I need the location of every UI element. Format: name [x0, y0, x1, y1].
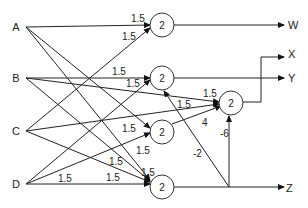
input-label-c: C — [12, 125, 20, 137]
weight-n4-n2: -2 — [193, 148, 202, 159]
weight-a-n1: 1.5 — [131, 13, 145, 24]
weight-b-n5: 1.5 — [203, 88, 217, 99]
weight-c-n5: 1.5 — [177, 99, 191, 110]
node-n1: 2 — [150, 13, 174, 37]
node-n2-threshold: 2 — [159, 73, 165, 84]
edges — [26, 25, 284, 187]
weight-n4-n5: -6 — [220, 128, 229, 139]
node-n3: 2 — [150, 120, 174, 144]
weight-a-n4: 1.5 — [141, 167, 155, 178]
weight-d-n3: 1.5 — [136, 145, 150, 156]
edge-d-n3 — [26, 133, 150, 184]
input-label-d: D — [12, 178, 20, 190]
weight-c-n1: 1.5 — [122, 31, 136, 42]
output-label-y: Y — [288, 72, 296, 84]
output-label-x: X — [288, 48, 296, 60]
node-n1-threshold: 2 — [159, 20, 165, 31]
node-n5-threshold: 2 — [228, 98, 234, 109]
neural-network-diagram: 2 2 2 2 2 A B C D W X Y Z 1.5 1.5 — [0, 0, 308, 208]
weight-a-n3: 1.5 — [122, 123, 136, 134]
node-n4: 2 — [150, 175, 174, 199]
node-n2: 2 — [150, 66, 174, 90]
edge-a-n4 — [26, 27, 150, 180]
edge-n5-x — [243, 57, 284, 102]
input-label-a: A — [12, 21, 20, 33]
weight-b-n4: 1.5 — [106, 172, 120, 183]
weight-d-n2: 1.5 — [126, 78, 140, 89]
input-label-b: B — [12, 72, 19, 84]
weight-b-n2: 1.5 — [112, 66, 126, 77]
weight-d-n4: 1.5 — [58, 173, 72, 184]
output-labels: W X Y Z — [286, 19, 299, 194]
input-labels: A B C D — [12, 21, 20, 190]
edge-a-n1 — [26, 25, 150, 27]
weight-n3-n5: 4 — [202, 117, 208, 128]
output-label-w: W — [288, 19, 299, 31]
node-n4-threshold: 2 — [159, 182, 165, 193]
weight-c-n4: 1.5 — [109, 156, 123, 167]
node-n5: 2 — [219, 91, 243, 115]
node-n3-threshold: 2 — [159, 127, 165, 138]
output-label-z: Z — [286, 182, 293, 194]
